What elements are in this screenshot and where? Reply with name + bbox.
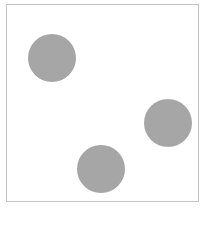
circle-2 — [144, 99, 192, 147]
circle-3 — [77, 145, 125, 193]
circle-1 — [28, 34, 76, 82]
